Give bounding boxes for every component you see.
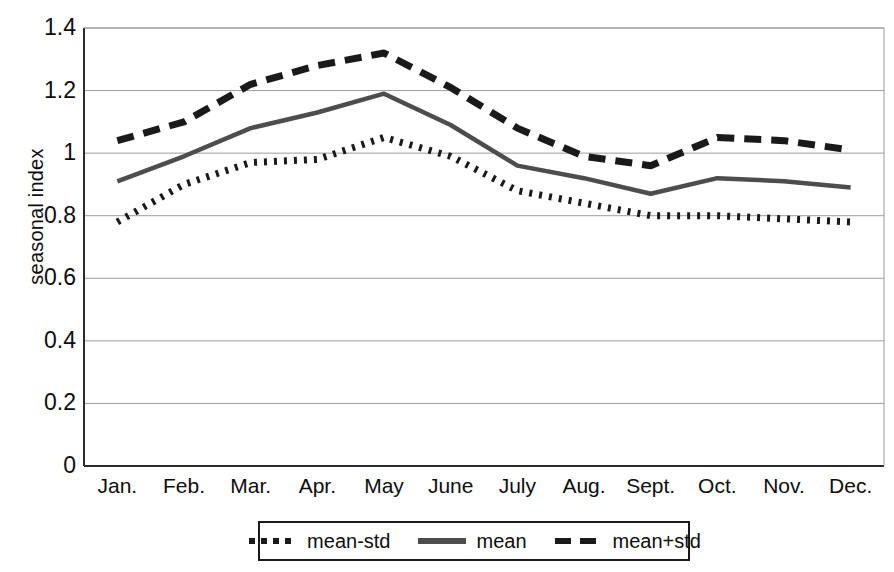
- seasonal-index-line-chart: seasonal index 00.20.40.60.811.21.4 Jan.…: [0, 0, 894, 572]
- series-line-mean-std: [117, 53, 850, 166]
- x-tick-label: Aug.: [562, 474, 605, 498]
- x-tick-label: Oct.: [698, 474, 737, 498]
- x-tick-label: July: [499, 474, 536, 498]
- x-tick-label: Feb.: [163, 474, 205, 498]
- x-tick-label: May: [364, 474, 404, 498]
- legend-label: mean-std: [307, 530, 390, 553]
- x-tick-label: Apr.: [299, 474, 336, 498]
- x-axis-tick-labels: Jan.Feb.Mar.Apr.MayJuneJulyAug.Sept.Oct.…: [0, 474, 894, 514]
- legend-label: mean: [476, 530, 526, 553]
- x-tick-label: Nov.: [763, 474, 805, 498]
- legend-item-mean: mean: [416, 530, 526, 553]
- solid-line-swatch-icon: [416, 536, 468, 546]
- x-tick-label: Mar.: [230, 474, 271, 498]
- dotted-line-swatch-icon: [247, 536, 299, 546]
- x-tick-label: Dec.: [829, 474, 872, 498]
- series-line-mean: [117, 94, 850, 194]
- legend-item-mean-plus-std: mean+std: [553, 530, 701, 553]
- x-tick-label: Sept.: [626, 474, 675, 498]
- chart-legend: mean-std mean mean+std: [258, 521, 690, 561]
- legend-label: mean+std: [613, 530, 701, 553]
- legend-item-mean-std: mean-std: [247, 530, 390, 553]
- dashed-line-swatch-icon: [553, 536, 605, 546]
- x-tick-label: Jan.: [97, 474, 137, 498]
- x-tick-label: June: [428, 474, 474, 498]
